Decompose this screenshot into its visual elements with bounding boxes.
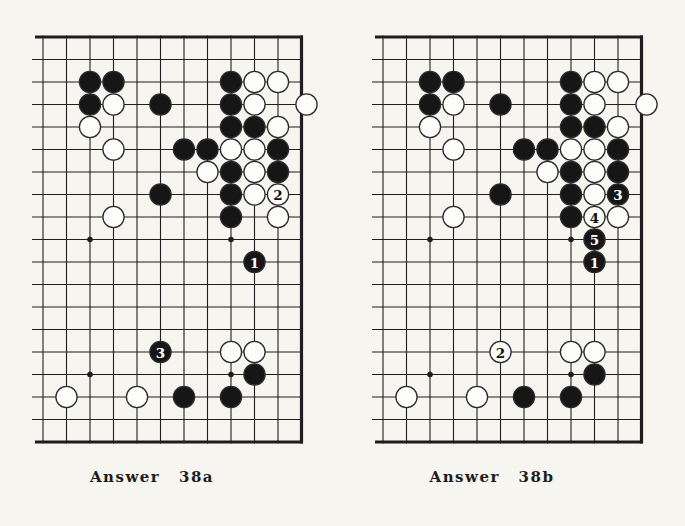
- stone-black: [560, 161, 581, 182]
- white-stone: [79, 116, 100, 137]
- stone-white: [244, 139, 265, 160]
- black-stone: [584, 364, 605, 385]
- black-stone: [220, 71, 241, 92]
- stone-black: [419, 94, 440, 115]
- white-stone: [244, 71, 265, 92]
- black-stone: [490, 184, 511, 205]
- white-stone: [244, 139, 265, 160]
- move-number-label: 3: [613, 187, 622, 203]
- stone-white: [537, 161, 558, 182]
- white-stone: [56, 386, 77, 407]
- black-stone: [79, 94, 100, 115]
- stone-white: [103, 206, 124, 227]
- move-stone-1: 1: [584, 251, 605, 272]
- stone-white: [267, 116, 288, 137]
- move-number-label: 2: [273, 187, 282, 203]
- stone-black: [244, 364, 265, 385]
- stone-black: [267, 139, 288, 160]
- stone-white: [443, 139, 464, 160]
- black-stone: [513, 386, 534, 407]
- stone-black: [220, 71, 241, 92]
- black-stone: [560, 116, 581, 137]
- black-stone: [267, 139, 288, 160]
- white-stone: [419, 116, 440, 137]
- stone-black: [197, 139, 218, 160]
- white-stone: [267, 71, 288, 92]
- stone-black: [537, 139, 558, 160]
- star-point: [427, 372, 433, 378]
- black-stone: [607, 161, 628, 182]
- white-stone: [584, 71, 605, 92]
- white-stone: [244, 341, 265, 362]
- white-stone: [267, 206, 288, 227]
- black-stone: [560, 161, 581, 182]
- move-number-label: 3: [156, 345, 165, 361]
- white-stone: [584, 161, 605, 182]
- white-stone: [607, 116, 628, 137]
- white-stone: [443, 206, 464, 227]
- stone-black: [560, 71, 581, 92]
- stone-white: [443, 94, 464, 115]
- stone-black: [150, 184, 171, 205]
- stone-white: [607, 71, 628, 92]
- black-stone: [197, 139, 218, 160]
- stone-white: [56, 386, 77, 407]
- move-stone-3: 3: [150, 341, 171, 362]
- stone-black: [607, 161, 628, 182]
- star-point: [568, 237, 574, 243]
- black-stone: [150, 184, 171, 205]
- stone-black: [490, 94, 511, 115]
- white-stone: [220, 341, 241, 362]
- white-stone: [103, 139, 124, 160]
- stone-black: [584, 364, 605, 385]
- stone-black: [267, 161, 288, 182]
- stone-black: [220, 161, 241, 182]
- stone-white: [443, 206, 464, 227]
- stone-white: [244, 71, 265, 92]
- stone-white: [267, 206, 288, 227]
- move-stone-4: 4: [584, 206, 605, 227]
- move-stone-5: 5: [584, 229, 605, 250]
- move-number-label: 1: [590, 255, 599, 271]
- go-board-answer-38b: 12345: [368, 30, 660, 448]
- stone-black: [560, 386, 581, 407]
- black-stone: [150, 94, 171, 115]
- move-number-label: 2: [496, 345, 505, 361]
- stone-black: [560, 94, 581, 115]
- black-stone: [244, 116, 265, 137]
- white-stone: [197, 161, 218, 182]
- white-stone: [244, 184, 265, 205]
- stone-black: [560, 184, 581, 205]
- caption-answer-38a: Answer 38a: [6, 468, 298, 486]
- move-stone-3: 3: [607, 184, 628, 205]
- caption-answer-38b: Answer 38b: [346, 468, 638, 486]
- stone-white: [244, 184, 265, 205]
- stone-white: [79, 116, 100, 137]
- black-stone: [513, 139, 534, 160]
- white-stone: [244, 94, 265, 115]
- go-board-answer-38a: 123: [28, 30, 320, 448]
- move-stone-2: 2: [267, 184, 288, 205]
- move-stone-2: 2: [490, 341, 511, 362]
- go-diagram-a: 123: [28, 30, 320, 448]
- stone-black: [150, 94, 171, 115]
- white-stone: [584, 94, 605, 115]
- stone-black: [443, 71, 464, 92]
- stone-black: [607, 139, 628, 160]
- stone-white: [607, 116, 628, 137]
- stone-black: [173, 139, 194, 160]
- stone-white: [607, 206, 628, 227]
- stone-white: [419, 116, 440, 137]
- black-stone: [79, 71, 100, 92]
- black-stone: [560, 184, 581, 205]
- stone-black: [173, 386, 194, 407]
- black-stone: [173, 139, 194, 160]
- black-stone: [419, 71, 440, 92]
- white-stone: [537, 161, 558, 182]
- black-stone: [220, 184, 241, 205]
- stone-black: [419, 71, 440, 92]
- stone-white: [584, 161, 605, 182]
- black-stone: [244, 364, 265, 385]
- star-point: [87, 372, 93, 378]
- black-stone: [220, 206, 241, 227]
